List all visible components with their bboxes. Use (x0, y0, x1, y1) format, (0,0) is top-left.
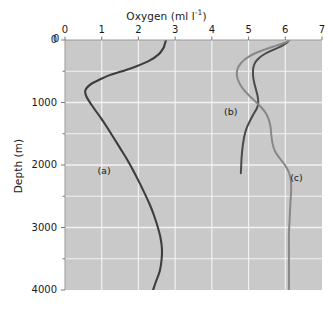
x-tick-label: 3 (163, 24, 187, 35)
y-tick-label: 2000 (17, 159, 57, 170)
curve-label-b: (b) (224, 106, 237, 117)
y-tick-label: 3000 (17, 222, 57, 233)
x-axis-title-tail: ) (203, 10, 207, 22)
x-axis-title-main: Oxygen (ml l (126, 10, 195, 22)
x-tick-label: 5 (237, 24, 261, 35)
y-tick-label: 4000 (17, 284, 57, 295)
curve-label-c: (c) (290, 172, 303, 183)
x-tick-label: 7 (310, 24, 333, 35)
x-axis-title: Oxygen (ml l-1) (0, 8, 333, 22)
x-tick-label: 6 (273, 24, 297, 35)
x-tick-label: 4 (200, 24, 224, 35)
y-tick-label: 1000 (17, 97, 57, 108)
x-axis-title-exponent: -1 (195, 8, 203, 17)
x-tick-label: 1 (90, 24, 114, 35)
y-tick-label: 0 (17, 34, 57, 45)
oxygen-depth-profile-figure: Oxygen (ml l-1) Depth (m) 0 01234567 010… (0, 0, 333, 313)
x-tick-label: 2 (126, 24, 150, 35)
curve-label-a: (a) (97, 165, 110, 176)
chart-canvas (0, 0, 333, 313)
